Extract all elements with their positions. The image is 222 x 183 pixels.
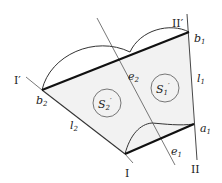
I-line [125, 154, 133, 163]
label-I: I [125, 167, 129, 180]
geometry-diagram: I′ II′ I II b1 b2 a1 e1 e2 l1 l2 S2′ S1′ [0, 0, 222, 183]
label-S2-prime: S2′ [98, 97, 112, 112]
label-l2: l2 [70, 119, 79, 133]
label-S1-prime: S1′ [156, 82, 170, 97]
label-b1: b1 [194, 32, 206, 46]
label-I-prime: I′ [14, 74, 21, 87]
label-a1: a1 [200, 122, 211, 136]
label-b2: b2 [36, 94, 48, 108]
label-II-prime: II′ [172, 17, 184, 30]
label-e1: e1 [171, 145, 182, 159]
I-prime-line [26, 77, 42, 90]
label-II: II [191, 163, 200, 176]
label-l1: l1 [197, 72, 205, 86]
shaded-region [42, 32, 194, 154]
